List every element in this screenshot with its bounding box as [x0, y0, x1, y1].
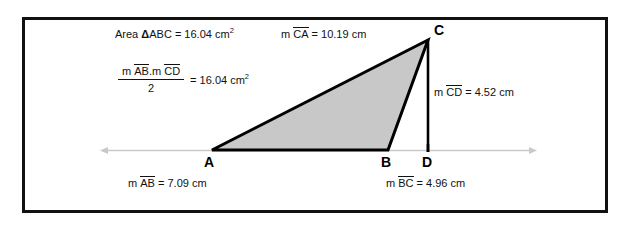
axis-right-arrowhead-icon — [529, 147, 537, 154]
measure-bc-segment: BC — [398, 176, 413, 189]
axis-left-arrowhead-icon — [100, 147, 108, 154]
measure-ca-value: = 10.19 cm — [312, 28, 367, 40]
vertex-label-b: B — [381, 155, 391, 170]
measure-cd-value: = 4.52 cm — [465, 86, 514, 98]
measure-ca-segment: CA — [293, 27, 308, 40]
geometry-diagram-screenshot: Area ΔABC = 16.04 cm2 m AB.m CD 2 = 16.0… — [0, 0, 633, 234]
area-label-prefix: Area — [115, 28, 138, 40]
fraction-numerator-dot-m: .m — [149, 65, 161, 77]
fraction-result-exponent: 2 — [245, 72, 249, 81]
measure-bc-label: m BC = 4.96 cm — [386, 176, 465, 190]
area-label-exponent: 2 — [230, 26, 234, 35]
measure-cd-prefix: m — [434, 86, 443, 98]
vertex-label-d: D — [422, 155, 432, 170]
measure-ab-value: = 7.09 cm — [158, 177, 207, 189]
measure-cd-label: m CD = 4.52 cm — [434, 85, 514, 99]
measure-ab-label: m AB = 7.09 cm — [128, 176, 207, 190]
area-label: Area ΔABC = 16.04 cm2 — [115, 28, 234, 41]
measure-ca-label: m CA = 10.19 cm — [281, 27, 366, 41]
fraction-expression: m AB.m CD 2 = 16.04 cm2 — [118, 64, 249, 95]
measure-ab-segment: AB — [140, 176, 155, 189]
area-label-expression: ABC = 16.04 cm — [149, 28, 229, 40]
vertex-label-c: C — [434, 23, 444, 38]
fraction-block: m AB.m CD 2 — [118, 64, 184, 95]
triangle-abc — [212, 40, 428, 150]
vertex-label-a: A — [204, 155, 214, 170]
fraction-denominator: 2 — [148, 80, 154, 95]
fraction-numerator-m1: m — [122, 65, 131, 77]
measure-bc-prefix: m — [386, 177, 395, 189]
measure-ab-prefix: m — [128, 177, 137, 189]
fraction-result-value: = 16.04 cm — [190, 74, 245, 86]
fraction-numerator-segment-ab: AB — [134, 64, 149, 77]
fraction-result: = 16.04 cm2 — [190, 74, 249, 86]
measure-bc-value: = 4.96 cm — [417, 177, 466, 189]
fraction-numerator-segment-cd: CD — [164, 64, 180, 77]
measure-cd-segment: CD — [446, 85, 462, 98]
measure-ca-prefix: m — [281, 28, 290, 40]
fraction-numerator: m AB.m CD — [118, 64, 184, 79]
